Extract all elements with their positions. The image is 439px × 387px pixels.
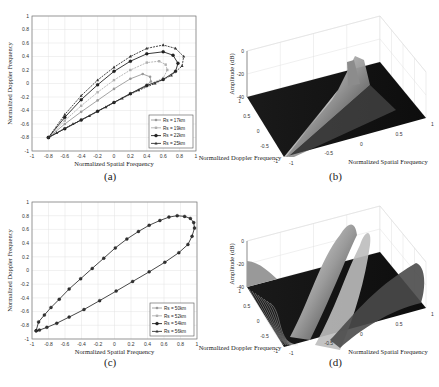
y-tick-label: 0.4: [22, 53, 29, 59]
y-axis-label: Normalized Doppler Frequency: [6, 41, 13, 124]
diamond-marker-icon: [176, 62, 179, 65]
y-tick-label: 0.8: [22, 26, 29, 32]
diamond-marker-icon: [96, 83, 99, 86]
diamond-marker-icon: [113, 70, 116, 73]
x-tick-label: 1: [195, 153, 198, 159]
x-tick-label: -0.6: [60, 153, 69, 159]
x-axis-label: Normalized Spatial Frequency: [348, 348, 428, 355]
circle-marker-icon: [155, 119, 158, 122]
x-tick-label: -0.6: [61, 341, 70, 347]
x-tick-label: -0.4: [77, 341, 86, 347]
y-tick-label: -0.4: [20, 107, 29, 113]
y-tick-label: 0: [26, 267, 29, 273]
legend: Rs = 50kmRs = 52kmRs = 54kmRs = 56km: [150, 303, 194, 336]
x-tick-label: -0.5: [325, 150, 334, 156]
square-marker-icon: [146, 61, 148, 63]
diamond-marker-icon: [102, 257, 105, 260]
x-axis-label: Normalized Spatial Frequency: [75, 348, 155, 355]
x-tick-label: 0.6: [160, 153, 167, 159]
legend-entry: Rs = 56km: [164, 329, 186, 334]
circle-marker-icon: [150, 80, 153, 83]
diamond-marker-icon: [186, 243, 189, 246]
x-tick-label: 0.5: [396, 321, 403, 327]
y-tick-label: 0.5: [243, 113, 250, 119]
z-axis-label: Amplitude (dB): [228, 53, 236, 94]
circle-marker-icon: [149, 75, 152, 78]
y-tick-label: 0.4: [22, 240, 29, 246]
legend-entry: Rs = 52km: [164, 314, 186, 319]
x-tick-label: -0.2: [93, 153, 102, 159]
legend-entry: Rs = 22km: [163, 133, 185, 138]
x-tick-label: 1: [431, 311, 434, 317]
diamond-marker-icon: [49, 306, 52, 309]
y-tick-label: -0.5: [260, 333, 269, 339]
legend-entry: Rs = 25km: [163, 141, 185, 146]
x-tick-label: 0.5: [396, 131, 403, 137]
y-tick-label: 1: [238, 98, 241, 104]
diamond-marker-icon: [176, 214, 179, 217]
diamond-marker-icon: [183, 215, 186, 218]
diamond-marker-icon: [156, 322, 159, 325]
diamond-marker-icon: [145, 52, 148, 55]
plot-b-surface: 0-20-40Amplitude (dB)10.50-0.5-1-1-0.500…: [220, 0, 439, 190]
x-tick-label: -0.8: [44, 341, 53, 347]
y-tick-label: -0.4: [20, 295, 29, 301]
diamond-marker-icon: [125, 237, 128, 240]
square-marker-icon: [158, 60, 160, 62]
y-tick-label: 0.6: [22, 40, 29, 46]
x-tick-label: 0.8: [177, 341, 184, 347]
y-tick-label: 0.6: [22, 226, 29, 232]
y-tick-label: 1: [26, 199, 29, 205]
y-tick-label: -0.6: [20, 308, 29, 314]
diamond-marker-icon: [79, 277, 82, 280]
y-tick-label: 0: [257, 318, 260, 324]
y-tick-label: -0.2: [20, 281, 29, 287]
y-tick-label: -0.8: [20, 134, 29, 140]
circle-marker-icon: [113, 88, 116, 91]
diamond-marker-icon: [38, 329, 41, 332]
legend-entry: Rs = 54km: [164, 321, 186, 326]
x-tick-label: 0: [360, 331, 363, 337]
square-marker-icon: [164, 63, 166, 65]
x-tick-label: 0: [360, 141, 363, 147]
diamond-marker-icon: [80, 98, 83, 101]
y-tick-label: -0.2: [20, 94, 29, 100]
y-tick-label: -0.8: [20, 322, 29, 328]
circle-marker-icon: [156, 307, 159, 310]
x-tick-label: -1: [289, 160, 294, 166]
diamond-marker-icon: [191, 235, 194, 238]
diamond-marker-icon: [45, 326, 48, 329]
caption-d: (d): [329, 356, 342, 368]
legend-entry: Rs = 50km: [164, 306, 186, 311]
diamond-marker-icon: [55, 322, 58, 325]
x-tick-label: -1: [30, 153, 35, 159]
y-tick-label: -0.5: [260, 143, 269, 149]
x-tick-label: 0.6: [161, 341, 168, 347]
x-axis-label: Normalized Spatial Frequency: [348, 158, 428, 165]
diamond-marker-icon: [172, 54, 175, 57]
y-tick-label: 0: [26, 80, 29, 86]
diamond-marker-icon: [58, 298, 61, 301]
y-tick-label: 0.2: [22, 254, 29, 260]
diamond-marker-icon: [163, 261, 166, 264]
diamond-marker-icon: [192, 221, 195, 224]
diamond-marker-icon: [37, 320, 40, 323]
diamond-marker-icon: [167, 216, 170, 219]
diamond-marker-icon: [82, 308, 85, 311]
square-marker-icon: [166, 69, 168, 71]
y-tick-label: 0.2: [22, 67, 29, 73]
diamond-marker-icon: [177, 251, 180, 254]
circle-marker-icon: [96, 99, 99, 102]
circle-marker-icon: [80, 111, 83, 114]
y-tick-label: 0.8: [22, 213, 29, 219]
x-tick-label: 0.2: [127, 153, 134, 159]
diamond-marker-icon: [137, 230, 140, 233]
y-axis-label: Normalized Doppler Frequency: [6, 228, 13, 311]
panel-a: -1-0.8-0.6-0.4-0.200.20.40.60.8110.80.60…: [0, 0, 220, 190]
triangle-marker-icon: [182, 55, 185, 58]
x-tick-label: -1: [30, 341, 35, 347]
x-tick-label: 1: [431, 121, 434, 127]
y-tick-label: -0.6: [20, 121, 29, 127]
square-marker-icon: [96, 91, 98, 93]
diamond-marker-icon: [91, 267, 94, 270]
